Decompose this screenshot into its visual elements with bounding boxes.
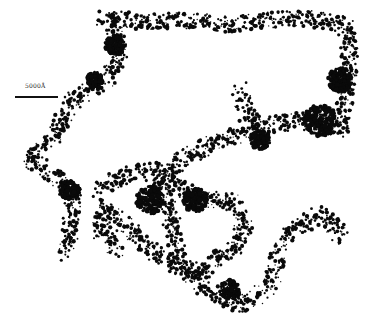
scale-bar-label: 5000Å <box>25 82 46 89</box>
fractal-aggregate-image <box>0 0 367 326</box>
micrograph-figure <box>0 0 367 326</box>
scale-bar <box>15 96 58 98</box>
